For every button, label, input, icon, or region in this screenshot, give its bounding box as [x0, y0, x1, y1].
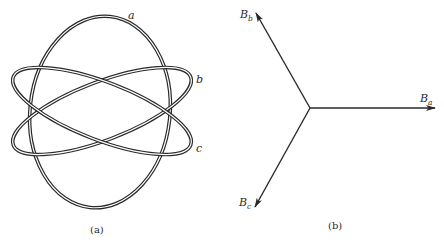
vector-label-bb-sub: b: [248, 14, 253, 23]
vector-label-bc-name: B: [238, 196, 247, 209]
vector-label-ba-name: B: [419, 92, 428, 105]
vector-bc: [255, 108, 310, 207]
coil-label-c: c: [196, 142, 202, 155]
vector-label-ba: Ba: [419, 92, 433, 107]
figure: a b c (a) Ba Bb Bc (b): [0, 0, 444, 246]
vector-label-bc-sub: c: [247, 202, 252, 211]
caption-b: (b): [328, 220, 342, 231]
coil-label-b: b: [196, 73, 203, 86]
panel-a-coils: a b c (a): [3, 9, 203, 235]
vector-bb: [256, 13, 310, 108]
coil-a: [20, 9, 179, 215]
vector-label-bc: Bc: [238, 196, 252, 211]
vector-label-bb: Bb: [239, 8, 253, 23]
vector-label-bb-name: B: [239, 8, 248, 21]
panel-b-phasors: Ba Bb Bc (b): [238, 8, 435, 231]
caption-a: (a): [90, 224, 104, 235]
coil-label-a: a: [128, 9, 135, 22]
vector-label-ba-sub: a: [428, 98, 432, 107]
